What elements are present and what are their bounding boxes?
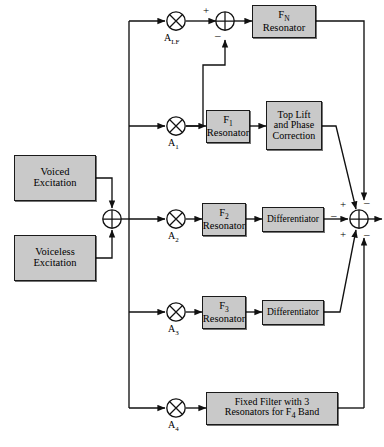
fn-resonator-line1: FN bbox=[278, 9, 289, 20]
fn-resonator-block: FN Resonator bbox=[252, 5, 316, 38]
sign-top-adder-plus: + bbox=[203, 5, 209, 16]
fixed-filter-line2: Resonators for F4 Band bbox=[225, 406, 319, 417]
differentiator-2-block: Differentiator bbox=[262, 300, 324, 325]
sign-output-left-minus: – bbox=[331, 210, 337, 221]
toplift-line3: Correction bbox=[273, 130, 316, 141]
f1-resonator-block: F1 Resonator bbox=[206, 110, 250, 143]
f3-resonator-line1: F3 bbox=[219, 300, 229, 311]
sign-output-lower-minus: – bbox=[364, 229, 370, 240]
f2-resonator-line1: F2 bbox=[219, 207, 229, 218]
wire-toplift-to-output-adder bbox=[322, 126, 356, 209]
sign-output-upper-minus: – bbox=[364, 197, 370, 208]
differentiator-1-label: Differentiator bbox=[265, 215, 321, 225]
sign-output-upper-plus: + bbox=[340, 199, 346, 210]
voiceless-excitation-line1: Voiceless bbox=[35, 246, 74, 257]
top-lift-phase-correction-block: Top Lift and Phase Correction bbox=[266, 101, 322, 150]
wire-voiced-to-adder bbox=[96, 178, 112, 208]
wire-fn-to-output-adder bbox=[316, 21, 364, 200]
differentiator-1-block: Differentiator bbox=[262, 207, 324, 232]
gain-multiplier-symbols bbox=[167, 12, 185, 417]
gain-label-a4: A4 bbox=[168, 419, 179, 433]
fixed-filter-block: Fixed Filter with 3 Resonators for F4 Ba… bbox=[206, 392, 338, 425]
f3-resonator-block: F3 Resonator bbox=[202, 296, 246, 329]
gain-label-a3: A3 bbox=[168, 323, 179, 337]
sign-output-lower-plus: + bbox=[340, 229, 346, 240]
voiceless-excitation-line2: Excitation bbox=[33, 257, 76, 268]
voiced-excitation-block: Voiced Excitation bbox=[14, 155, 96, 201]
voiced-excitation-line1: Voiced bbox=[41, 166, 70, 177]
f3-resonator-line2: Resonator bbox=[203, 313, 246, 324]
f1-resonator-line2: Resonator bbox=[207, 127, 250, 138]
gain-label-alf: ALF bbox=[164, 32, 179, 46]
gain-label-a2: A2 bbox=[168, 230, 179, 244]
sign-top-adder-minus: – bbox=[215, 30, 221, 41]
wiring-layer bbox=[0, 0, 384, 447]
wire-diff2-to-output-adder bbox=[324, 230, 356, 312]
f2-resonator-block: F2 Resonator bbox=[202, 203, 246, 236]
fn-resonator-line2: Resonator bbox=[263, 22, 306, 33]
gain-label-a1: A1 bbox=[168, 137, 179, 151]
voiced-excitation-line2: Excitation bbox=[33, 177, 76, 188]
f1-resonator-line1: F1 bbox=[223, 114, 233, 125]
wire-voiceless-to-adder bbox=[96, 230, 112, 258]
f2-resonator-line2: Resonator bbox=[203, 220, 246, 231]
differentiator-2-label: Differentiator bbox=[265, 308, 321, 318]
formant-synthesizer-diagram: Voiced Excitation Voiceless Excitation F… bbox=[0, 0, 384, 447]
voiceless-excitation-block: Voiceless Excitation bbox=[14, 235, 96, 281]
